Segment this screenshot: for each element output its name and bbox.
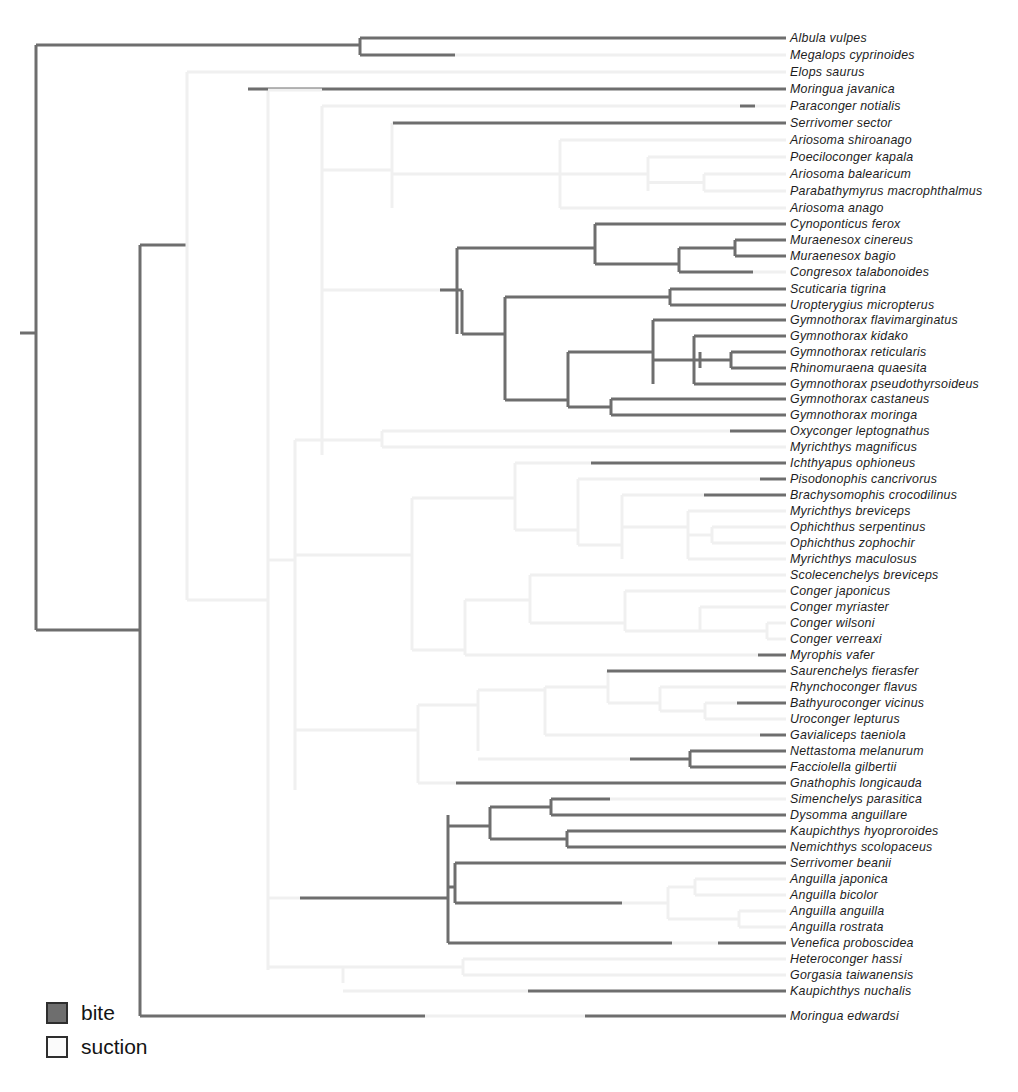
tip-label: Anguilla bicolor: [790, 889, 878, 901]
tip-label: Brachysomophis crocodilinus: [790, 489, 957, 501]
legend-item-bite: bite: [46, 996, 148, 1030]
tip-label: Heteroconger hassi: [790, 953, 902, 965]
tip-label: Scolecenchelys breviceps: [790, 569, 939, 581]
tip-label: Muraenesox bagio: [790, 250, 896, 262]
tip-label: Albula vulpes: [790, 32, 867, 44]
tip-label: Ichthyapus ophioneus: [790, 457, 916, 469]
legend: bite suction: [46, 996, 148, 1064]
tip-label: Moringua edwardsi: [790, 1010, 899, 1022]
tip-label: Rhynchoconger flavus: [790, 681, 918, 693]
tip-label: Ariosoma anago: [790, 202, 884, 214]
legend-swatch-bite-icon: [46, 1002, 68, 1024]
tip-label: Uroconger lepturus: [790, 713, 900, 725]
tip-label: Gymnothorax castaneus: [790, 393, 930, 405]
tip-label: Saurenchelys fierasfer: [790, 665, 919, 677]
tip-label: Ariosoma shiroanago: [790, 134, 912, 146]
tip-label: Dysomma anguillare: [790, 809, 907, 821]
tip-label: Gavialiceps taeniola: [790, 729, 906, 741]
tip-label: Anguilla japonica: [790, 873, 888, 885]
tip-label: Anguilla rostrata: [790, 921, 884, 933]
legend-label-suction: suction: [81, 1035, 148, 1059]
tip-label: Kaupichthys hyoproroides: [790, 825, 939, 837]
tip-label: Paraconger notialis: [790, 100, 901, 112]
tree-branches: [20, 38, 786, 1016]
tip-label: Oxyconger leptognathus: [790, 425, 930, 437]
tip-label: Myrichthys maculosus: [790, 553, 917, 565]
tip-label: Serrivomer sector: [790, 117, 892, 129]
tip-label: Myrichthys breviceps: [790, 505, 911, 517]
tip-label: Myrichthys magnificus: [790, 441, 917, 453]
tip-label: Conger japonicus: [790, 585, 890, 597]
tip-label: Bathyuroconger vicinus: [790, 697, 924, 709]
tip-label: Ophichthus zophochir: [790, 537, 915, 549]
tip-label: Moringua javanica: [790, 83, 895, 95]
tip-label: Gymnothorax reticularis: [790, 346, 927, 358]
tip-label: Muraenesox cinereus: [790, 234, 913, 246]
phylogenetic-tree-figure: Albula vulpesMegalops cyprinoidesElops s…: [0, 0, 1018, 1092]
tip-label: Venefica proboscidea: [790, 937, 914, 949]
tip-label: Serrivomer beanii: [790, 857, 891, 869]
tip-label: Cynoponticus ferox: [790, 218, 901, 230]
tip-label: Gymnothorax kidako: [790, 330, 908, 342]
tip-label: Megalops cyprinoides: [790, 49, 915, 61]
tip-label: Gnathophis longicauda: [790, 777, 922, 789]
tip-label: Gymnothorax flavimarginatus: [790, 314, 958, 326]
tip-label: Anguilla anguilla: [790, 905, 884, 917]
tip-label: Pisodonophis cancrivorus: [790, 473, 937, 485]
tip-label: Conger verreaxi: [790, 633, 882, 645]
tip-label: Rhinomuraena quaesita: [790, 362, 927, 374]
tip-label: Conger wilsoni: [790, 617, 875, 629]
tip-label: Nemichthys scolopaceus: [790, 841, 933, 853]
tip-label: Kaupichthys nuchalis: [790, 985, 911, 997]
tip-label: Parabathymyrus macrophthalmus: [790, 185, 982, 197]
legend-label-bite: bite: [81, 1001, 115, 1025]
tip-label: Conger myriaster: [790, 601, 889, 613]
tip-label: Uropterygius micropterus: [790, 299, 934, 311]
legend-item-suction: suction: [46, 1030, 148, 1064]
tip-label: Scuticaria tigrina: [790, 283, 886, 295]
tip-label: Congresox talabonoides: [790, 266, 929, 278]
tip-label: Myrophis vafer: [790, 649, 875, 661]
tip-label: Poeciloconger kapala: [790, 151, 913, 163]
tip-label: Facciolella gilbertii: [790, 761, 896, 773]
tip-label: Nettastoma melanurum: [790, 745, 924, 757]
tip-label: Gymnothorax pseudothyrsoideus: [790, 378, 979, 390]
tip-label: Ariosoma balearicum: [790, 168, 911, 180]
legend-swatch-suction-icon: [46, 1036, 68, 1058]
tip-label: Elops saurus: [790, 66, 865, 78]
tip-label: Gorgasia taiwanensis: [790, 969, 913, 981]
tip-label: Simenchelys parasitica: [790, 793, 922, 805]
tip-label: Gymnothorax moringa: [790, 409, 917, 421]
tip-label: Ophichthus serpentinus: [790, 521, 926, 533]
